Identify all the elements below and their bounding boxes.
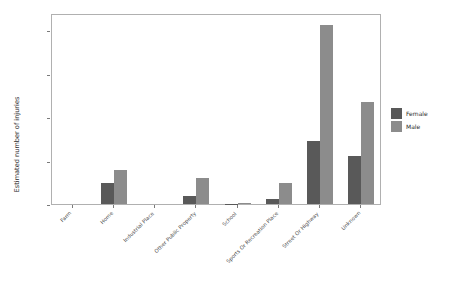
bar-male-3 [196, 178, 209, 204]
legend-color-swatch-male [391, 121, 402, 132]
bar-female-3 [183, 196, 196, 204]
y-axis-title: Estimated number of injuries [13, 97, 21, 193]
x-tick-label: Farm [59, 210, 72, 223]
x-tick-label: Unknown [340, 210, 362, 232]
legend-label-male: Male [406, 123, 420, 130]
legend-item-female: Female [391, 108, 428, 119]
x-tick-label: Street Or Highway [281, 210, 320, 249]
y-tick-mark [47, 75, 50, 76]
x-tick-mark [195, 205, 196, 208]
bar-male-7 [361, 102, 374, 204]
legend-item-male: Male [391, 121, 428, 132]
x-tick-label: Home [99, 210, 114, 225]
y-tick-mark [47, 31, 50, 32]
bar-female-6 [307, 141, 320, 204]
x-tick-mark [154, 205, 155, 208]
bar-female-1 [101, 183, 114, 204]
bar-male-6 [320, 25, 333, 204]
y-tick-mark [47, 118, 50, 119]
y-axis-title-wrapper: Estimated number of injuries [10, 0, 24, 289]
x-tick-label: Industrial Place [122, 210, 155, 243]
bar-female-5 [266, 199, 279, 204]
y-tick-mark [47, 162, 50, 163]
bar-male-4 [238, 203, 251, 204]
x-tick-mark [319, 205, 320, 208]
plot-panel [51, 14, 381, 205]
bar-male-1 [114, 170, 127, 204]
x-tick-label: School [221, 210, 238, 227]
bar-male-5 [279, 183, 292, 204]
x-tick-mark [72, 205, 73, 208]
legend: Female Male [391, 108, 428, 132]
x-tick-mark [360, 205, 361, 208]
legend-label-female: Female [406, 110, 428, 117]
bar-chart: Estimated number of injuries 0e+002e+054… [0, 0, 451, 289]
legend-color-swatch-female [391, 108, 402, 119]
x-tick-mark [278, 205, 279, 208]
bars-layer [52, 15, 380, 204]
x-tick-mark [237, 205, 238, 208]
x-tick-label: Other Public Property [153, 210, 197, 254]
y-tick-mark [47, 205, 50, 206]
bar-female-7 [348, 156, 361, 204]
x-tick-mark [113, 205, 114, 208]
